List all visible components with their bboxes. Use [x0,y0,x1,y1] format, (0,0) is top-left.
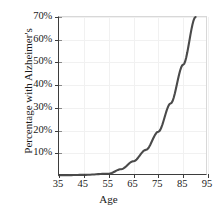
y-axis-tick-inner [59,108,62,109]
y-axis-tick-inner [59,131,62,132]
chart-figure: 10%20%30%40%50%60%70% 35455565758595 Age… [0,0,217,211]
y-axis-tick-inner [59,40,62,41]
x-axis-title: Age [0,193,217,205]
y-axis-tick-inner [59,17,62,18]
y-axis-tick-inner [59,153,62,154]
y-axis-tick-inner [59,62,62,63]
y-axis-tick-inner [59,85,62,86]
plot-area [58,16,207,175]
x-axis-tick-label: 95 [192,179,217,190]
alzheimers-prevalence-line [59,17,208,176]
gridline-vertical [208,17,209,174]
y-axis-title: Percentage with Alzheimer's [22,11,34,171]
